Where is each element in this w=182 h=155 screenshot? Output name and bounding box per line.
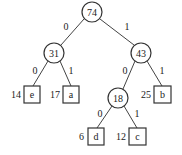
internal-node-31: 31 [44, 43, 64, 63]
edge-label-root-right: 1 [125, 21, 130, 32]
internal-node-18: 18 [108, 88, 128, 108]
edge-labels: 0 1 0 1 0 1 0 1 [33, 21, 165, 119]
internal-node-root: 74 [82, 2, 102, 22]
edge-label-n43-right: 1 [160, 65, 165, 76]
node-weight: 43 [136, 48, 146, 59]
leaf-symbol: a [69, 89, 74, 100]
leaf-symbol: d [94, 131, 99, 142]
leaf-a: 17 a [50, 86, 79, 103]
edge-label-n43-left: 0 [123, 65, 128, 76]
leaf-weight: 17 [50, 89, 60, 100]
leaf-symbol: b [160, 89, 165, 100]
edge-label-n18-left: 0 [98, 108, 103, 119]
leaf-c: 12 c [116, 128, 146, 145]
leaf-weight: 14 [11, 89, 21, 100]
leaf-symbol: e [30, 89, 35, 100]
node-weight: 18 [113, 93, 123, 104]
node-weight: 74 [87, 7, 97, 18]
leaf-weight: 6 [79, 131, 84, 142]
edge-label-n31-right: 1 [69, 65, 74, 76]
internal-node-43: 43 [131, 43, 151, 63]
edge-label-n18-right: 1 [135, 108, 140, 119]
leaf-d: 6 d [79, 128, 104, 145]
leaf-weight: 25 [141, 89, 151, 100]
leaf-weight: 12 [116, 131, 126, 142]
node-weight: 31 [49, 48, 59, 59]
huffman-tree-diagram: 0 1 0 1 0 1 0 1 74 31 43 18 14 e 17 a 25… [0, 0, 182, 155]
leaf-b: 25 b [141, 86, 171, 103]
leaf-symbol: c [135, 131, 140, 142]
edge-label-n31-left: 0 [33, 65, 38, 76]
edge-label-root-left: 0 [64, 21, 69, 32]
leaf-e: 14 e [11, 86, 40, 103]
